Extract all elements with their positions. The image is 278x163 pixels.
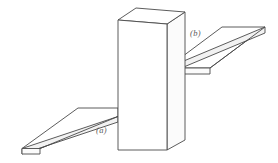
technical-line-drawing: (a) (b) xyxy=(0,0,278,163)
label-a: (a) xyxy=(96,125,107,135)
board-a-end-face xyxy=(22,149,40,155)
figure-container: (a) (b) xyxy=(0,0,278,163)
label-b: (b) xyxy=(190,28,201,38)
column-group xyxy=(118,8,185,150)
column-front-face xyxy=(118,20,167,150)
column-right-face xyxy=(167,12,185,150)
